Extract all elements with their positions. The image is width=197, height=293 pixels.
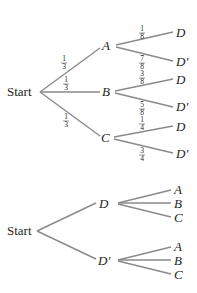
node-dprime: D′ bbox=[97, 253, 110, 268]
tree-diagrams: Start 1 3 1 3 1 3 A B C bbox=[0, 0, 197, 293]
edge-start-d bbox=[37, 203, 96, 231]
edge-b-d bbox=[115, 79, 173, 91]
edge-a-d bbox=[116, 32, 173, 45]
edge-b-dprime bbox=[115, 93, 173, 107]
prob-start-c: 1 3 bbox=[63, 112, 69, 129]
leaf-b-d: D bbox=[175, 72, 186, 87]
edge-a-dprime bbox=[116, 47, 173, 61]
edge-d-c bbox=[118, 204, 171, 217]
node-a: A bbox=[101, 38, 110, 53]
leaf-dprime-a: A bbox=[173, 239, 182, 254]
leaf-c-dprime: D′ bbox=[175, 146, 188, 161]
svg-text:3: 3 bbox=[62, 62, 66, 71]
tree-2: Start D D′ A B C A B C bbox=[7, 182, 183, 282]
leaf-a-d: D bbox=[175, 25, 186, 40]
edge-dprime-a bbox=[118, 247, 171, 260]
prob-c-d: 1 4 bbox=[139, 115, 145, 132]
edge-d-a bbox=[118, 190, 171, 203]
node-c: C bbox=[101, 130, 110, 145]
svg-text:8: 8 bbox=[140, 32, 144, 41]
tree1-root-label: Start bbox=[7, 84, 32, 99]
edge-start-dprime bbox=[37, 231, 96, 259]
leaf-d-c: C bbox=[174, 210, 183, 225]
leaf-dprime-c: C bbox=[174, 267, 183, 282]
prob-b-d: 3 8 bbox=[139, 69, 145, 86]
leaf-b-dprime: D′ bbox=[175, 99, 188, 114]
svg-text:3: 3 bbox=[64, 120, 68, 129]
svg-text:4: 4 bbox=[140, 154, 144, 163]
node-d: D bbox=[98, 196, 109, 211]
svg-text:3: 3 bbox=[64, 83, 68, 92]
node-b: B bbox=[102, 84, 110, 99]
tree-1: Start 1 3 1 3 1 3 A B C bbox=[7, 24, 188, 163]
prob-start-a: 1 3 bbox=[61, 54, 67, 71]
prob-start-b: 1 3 bbox=[63, 75, 69, 92]
leaf-d-b: B bbox=[174, 196, 182, 211]
leaf-a-dprime: D′ bbox=[175, 54, 188, 69]
leaf-dprime-b: B bbox=[174, 253, 182, 268]
prob-c-dprime: 3 4 bbox=[139, 146, 145, 163]
edge-start-a bbox=[40, 48, 100, 92]
leaf-d-a: A bbox=[173, 182, 182, 197]
leaf-c-d: D bbox=[175, 119, 186, 134]
svg-text:4: 4 bbox=[140, 123, 144, 132]
svg-text:8: 8 bbox=[140, 77, 144, 86]
edge-dprime-c bbox=[118, 261, 171, 274]
tree2-root-label: Start bbox=[7, 223, 32, 238]
edge-start-c bbox=[40, 92, 100, 136]
